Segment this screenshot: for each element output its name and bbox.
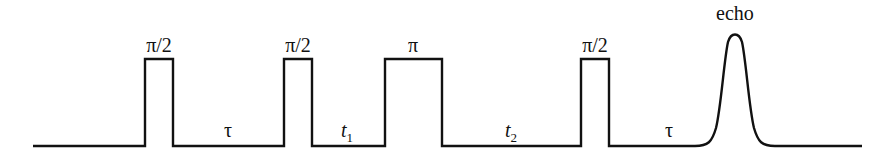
pulse-label-2: π/2	[285, 34, 311, 56]
t1-subscript: 1	[347, 130, 354, 145]
pulse-sequence-diagram: π/2 π/2 π π/2 τ t1 t2 τ echo	[0, 0, 888, 151]
echo-label: echo	[716, 2, 754, 24]
interval-label-tau-2: τ	[665, 119, 673, 141]
pulse-label-1: π/2	[146, 34, 172, 56]
interval-label-t2: t2	[505, 119, 517, 145]
interval-label-tau-1: τ	[224, 119, 232, 141]
echo-signal-trace	[695, 35, 862, 147]
pulse-train-trace	[33, 59, 695, 146]
pulse-label-3: π	[408, 34, 418, 56]
pulse-label-4: π/2	[582, 34, 608, 56]
interval-label-t1: t1	[341, 119, 353, 145]
t2-subscript: 2	[511, 130, 518, 145]
